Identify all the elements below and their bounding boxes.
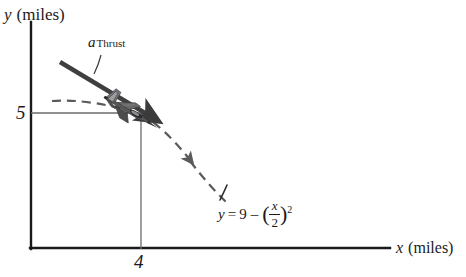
y-axis-label: y(miles)	[4, 6, 65, 23]
equation-label: y=9–(x2)2	[218, 200, 292, 230]
equation-exponent: 2	[287, 204, 292, 215]
y-axis-label-var: y	[4, 5, 12, 24]
trajectory-curve-arrow-segment	[141, 114, 190, 160]
thrust-label-leader	[94, 55, 101, 74]
x-tick-label-4: 4	[134, 252, 144, 271]
equation-fraction: x2	[269, 199, 280, 229]
figure-canvas: y(miles) x(miles) 5 4 aThrust y=9–(x2)2	[0, 0, 466, 277]
equation-numerator: x	[269, 199, 280, 213]
equation-paren-open: (	[262, 201, 269, 226]
equation-minus: –	[251, 206, 259, 222]
x-axis-label: x(miles)	[396, 240, 453, 256]
figure-graphics	[0, 0, 466, 277]
x-axis-label-var: x	[396, 239, 403, 256]
equation-denominator: 2	[269, 216, 280, 230]
y-tick-label-5: 5	[16, 103, 26, 122]
equation-constant: 9	[239, 206, 247, 222]
equation-lhs: y	[218, 206, 225, 222]
equation-paren-close: )	[280, 201, 287, 226]
equation-label-leader	[220, 185, 227, 200]
thrust-vector-label: aThrust	[88, 35, 125, 50]
y-axis-label-unit: (miles)	[17, 5, 65, 24]
trajectory-curve-tail	[190, 161, 226, 202]
thrust-vector-arrow	[60, 62, 150, 116]
equation-equals: =	[228, 206, 236, 222]
thrust-subscript: Thrust	[97, 37, 126, 49]
x-axis-label-unit: (miles)	[408, 239, 453, 256]
thrust-symbol: a	[88, 34, 96, 50]
